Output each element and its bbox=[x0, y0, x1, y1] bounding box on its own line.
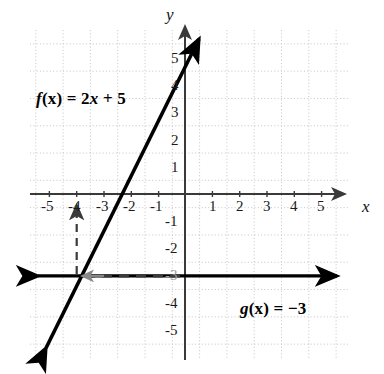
y-tick-label-5: 5 bbox=[171, 51, 179, 66]
x-tick-label--2: -2 bbox=[123, 199, 136, 214]
x-tick-label-2: 2 bbox=[236, 199, 244, 214]
y-tick-label--3: -3 bbox=[165, 268, 178, 283]
x-tick-label-4: 4 bbox=[290, 199, 298, 214]
x-tick-label--1: -1 bbox=[150, 199, 163, 214]
y-tick-label-x5: 5 bbox=[317, 199, 325, 214]
x-tick-label-3: 3 bbox=[263, 199, 271, 214]
graph-figure: y x -5 -4 -3 -2 -1 1 2 3 4 5 5 4 3 2 1 -… bbox=[0, 0, 384, 374]
y-tick-label--5: -5 bbox=[165, 323, 178, 338]
y-tick-label--4: -4 bbox=[165, 296, 178, 311]
y-tick-label-3: 3 bbox=[171, 105, 179, 120]
g-label-g: g bbox=[240, 299, 249, 318]
x-tick-label--3: -3 bbox=[96, 199, 109, 214]
g-function-label: g(x) = −3 bbox=[240, 300, 307, 317]
x-axis-label: x bbox=[362, 198, 370, 215]
f-label-xvar: x bbox=[90, 89, 99, 108]
g-label-paren: (x) bbox=[249, 299, 269, 318]
f-label-paren: (x) bbox=[42, 89, 62, 108]
x-tick-label-1: 1 bbox=[209, 199, 217, 214]
y-tick-label-1: 1 bbox=[171, 160, 179, 175]
g-label-equals-neg3: = −3 bbox=[269, 299, 306, 318]
f-function-label: f(x) = 2x + 5 bbox=[36, 90, 126, 107]
y-tick-label-2: 2 bbox=[171, 133, 179, 148]
x-tick-label--5: -5 bbox=[41, 199, 54, 214]
y-tick-label--1: -1 bbox=[165, 214, 178, 229]
y-tick-label--2: -2 bbox=[165, 241, 178, 256]
y-tick-label-4: 4 bbox=[171, 78, 179, 93]
coordinate-plane-svg bbox=[0, 0, 384, 374]
x-tick-label--4: -4 bbox=[68, 199, 81, 214]
f-label-plus5: + 5 bbox=[99, 89, 127, 108]
y-axis-label: y bbox=[166, 6, 174, 23]
f-label-equals: = 2 bbox=[62, 89, 90, 108]
